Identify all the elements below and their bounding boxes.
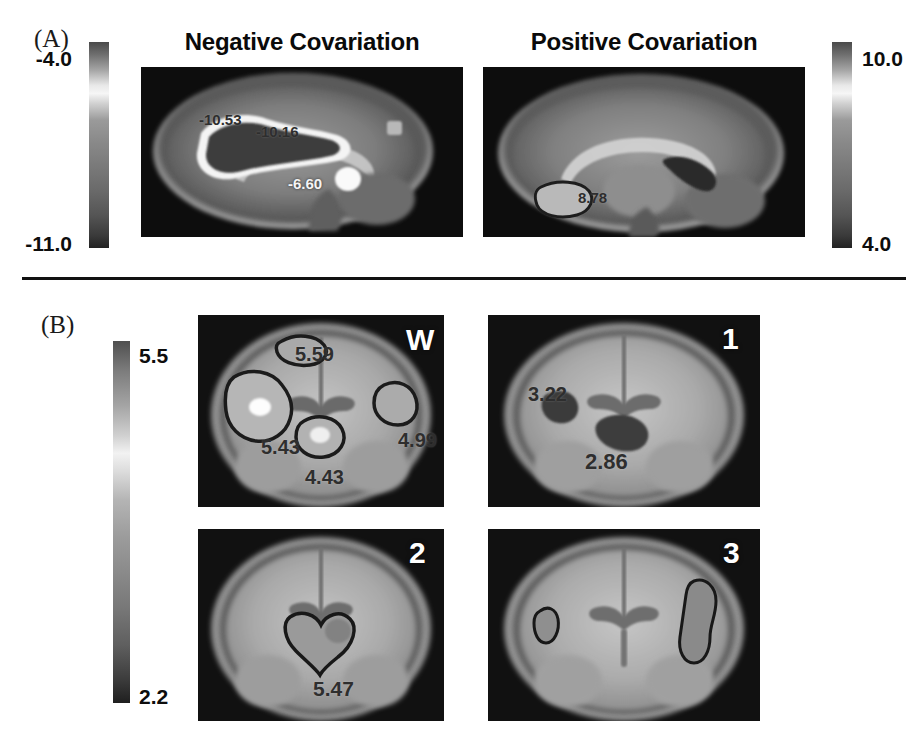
sagittal-brain-positive-svg <box>483 67 805 237</box>
panel-b-slice-w-tag: W <box>406 325 434 355</box>
panel-b-slice-3-tag: 3 <box>723 538 740 568</box>
panel-a-right-colorbar-max-label: 10.0 <box>862 48 903 69</box>
section-divider <box>22 277 906 280</box>
panel-b-slice-1-image <box>488 315 760 507</box>
panel-b-colorbar-min-label: 2.2 <box>139 686 168 707</box>
panel-b-slice-1-tag: 1 <box>722 324 739 354</box>
panel-a-right-colorbar-min-label: 4.0 <box>862 233 891 254</box>
panel-b-slice-3-image <box>488 529 760 721</box>
coronal-brain-3-svg <box>488 529 760 721</box>
panel-a-left-colorbar-max-label: -4.0 <box>16 48 72 69</box>
coronal-brain-2-svg <box>198 529 444 721</box>
sagittal-brain-negative-svg <box>141 67 463 237</box>
panel-b-letter: (B) <box>41 312 74 337</box>
panel-b-colorbar-max-label: 5.5 <box>139 345 168 366</box>
panel-a-positive-covariation-image <box>483 67 805 237</box>
negative-covariation-title: Negative Covariation <box>141 28 463 56</box>
panel-b-slice-2-tag: 2 <box>409 538 426 568</box>
panel-a-left-colorbar-min-label: -11.0 <box>6 233 72 254</box>
positive-covariation-title: Positive Covariation <box>483 28 805 56</box>
panel-a-negative-covariation-image <box>141 67 463 237</box>
panel-b-colorbar <box>113 341 130 703</box>
panel-a-right-colorbar <box>832 42 852 248</box>
panel-a-left-colorbar <box>89 42 109 248</box>
panel-b-slice-2-image <box>198 529 444 721</box>
coronal-brain-1-svg <box>488 315 760 507</box>
